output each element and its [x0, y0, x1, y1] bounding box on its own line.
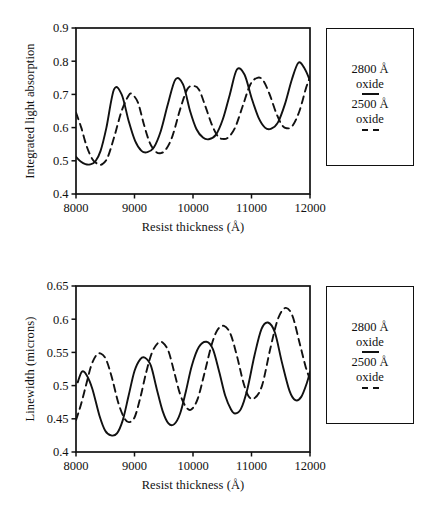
x-tick-label: 8000	[64, 459, 89, 473]
x-tick-label: 11000	[236, 459, 267, 473]
legend-swatch-solid-icon	[362, 93, 379, 95]
y-tick-label: 0.6	[53, 313, 69, 327]
x-tick-label: 11000	[236, 201, 267, 215]
x-tick-label: 10000	[177, 459, 208, 473]
y-tick-label: 0.55	[47, 346, 69, 360]
legend-linewidth: 2800 Å oxide 2500 Å oxide	[326, 286, 414, 424]
chart-panel-absorption: 0.40.50.60.70.80.98000900010000110001200…	[0, 0, 427, 258]
legend-entry-1-line2: oxide	[356, 335, 384, 350]
x-tick-label: 8000	[64, 201, 89, 215]
y-tick-label: 0.9	[53, 21, 69, 35]
legend-absorption: 2800 Å oxide 2500 Å oxide	[326, 28, 414, 166]
y-tick-label: 0.6	[53, 121, 69, 135]
x-tick-label: 9000	[122, 201, 147, 215]
y-tick-label: 0.7	[53, 88, 69, 102]
y-tick-label: 0.45	[47, 412, 69, 426]
legend-entry-1-line2: oxide	[356, 77, 384, 92]
legend-entry-2-line2: oxide	[356, 370, 384, 385]
x-axis-title-linewidth: Resist thickness (Å)	[142, 478, 245, 493]
y-tick-label: 0.4	[53, 187, 69, 201]
legend-swatch-dashed-icon	[362, 129, 379, 131]
y-tick-label: 0.4	[53, 445, 69, 459]
y-tick-label: 0.65	[47, 279, 69, 293]
x-tick-label: 12000	[294, 201, 325, 215]
y-axis-title-absorption: Integrated light absorption	[23, 43, 38, 178]
y-tick-label: 0.8	[53, 55, 69, 69]
legend-entry-1-line1: 2800 Å	[351, 320, 388, 335]
legend-swatch-solid-icon	[362, 351, 379, 353]
legend-entry-1-line1: 2800 Å	[351, 62, 388, 77]
legend-swatch-dashed-icon	[362, 387, 379, 389]
chart-panel-linewidth: 0.40.450.50.550.60.658000900010000110001…	[0, 258, 427, 516]
x-tick-label: 10000	[177, 201, 208, 215]
x-tick-label: 9000	[122, 459, 147, 473]
y-tick-label: 0.5	[53, 379, 69, 393]
legend-entry-2-line2: oxide	[356, 112, 384, 127]
y-tick-label: 0.5	[53, 154, 69, 168]
figure-two-panel-chart: 0.40.50.60.70.80.98000900010000110001200…	[0, 0, 427, 516]
x-tick-label: 12000	[294, 459, 325, 473]
legend-entry-2-line1: 2500 Å	[351, 355, 388, 370]
x-axis-title-absorption: Resist thickness (Å)	[142, 220, 245, 235]
legend-entry-2-line1: 2500 Å	[351, 97, 388, 112]
y-axis-title-linewidth: Linewidth (microns)	[23, 316, 38, 421]
